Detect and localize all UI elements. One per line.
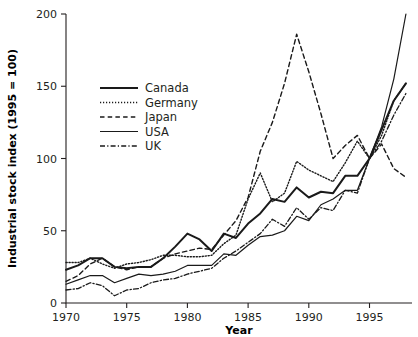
series-line-usa bbox=[66, 14, 406, 284]
y-tick-label: 100 bbox=[36, 153, 57, 166]
industrial-stock-index-chart: 050100150200197019751980198519901995Year… bbox=[0, 0, 418, 337]
series-line-canada bbox=[66, 83, 406, 269]
legend: CanadaGermanyJapanUSAUK bbox=[100, 81, 198, 153]
y-tick-label: 0 bbox=[50, 297, 57, 310]
series-line-uk bbox=[66, 93, 406, 295]
legend-label-germany: Germany bbox=[145, 96, 198, 110]
axis-lines bbox=[66, 14, 412, 303]
x-tick-label: 1985 bbox=[234, 311, 262, 324]
y-axis-ticks bbox=[61, 14, 66, 303]
y-tick-label: 150 bbox=[36, 80, 57, 93]
x-axis-title: Year bbox=[224, 324, 253, 337]
chart-canvas: 050100150200197019751980198519901995Year… bbox=[0, 0, 418, 337]
x-tick-label: 1970 bbox=[52, 311, 80, 324]
x-tick-label: 1995 bbox=[356, 311, 384, 324]
y-tick-label: 200 bbox=[36, 8, 57, 21]
x-tick-label: 1990 bbox=[295, 311, 323, 324]
y-axis-title: Industrial stock index (1995 = 100) bbox=[6, 49, 19, 268]
axes bbox=[66, 14, 412, 303]
x-axis-ticks bbox=[66, 303, 370, 308]
legend-label-japan: Japan bbox=[144, 110, 177, 124]
legend-label-usa: USA bbox=[145, 125, 169, 139]
y-tick-label: 50 bbox=[43, 225, 57, 238]
x-tick-label: 1980 bbox=[173, 311, 201, 324]
legend-label-canada: Canada bbox=[145, 81, 189, 95]
legend-label-uk: UK bbox=[145, 139, 161, 153]
series-group bbox=[66, 14, 406, 296]
x-tick-label: 1975 bbox=[113, 311, 141, 324]
series-line-japan bbox=[66, 34, 406, 281]
